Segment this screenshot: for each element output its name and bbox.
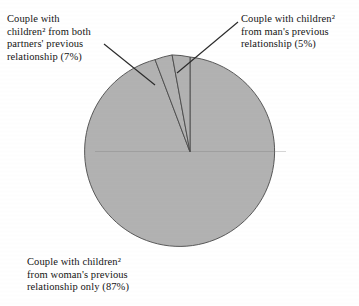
slice-label-both-partners: Couple with children² from both partners… xyxy=(7,13,129,63)
slice-label-woman-previous: Couple with children² from woman's previ… xyxy=(27,256,187,294)
slice-label-man-previous: Couple with children² from man's previou… xyxy=(241,13,359,51)
pie-chart: Couple with children² from both partners… xyxy=(0,0,359,306)
